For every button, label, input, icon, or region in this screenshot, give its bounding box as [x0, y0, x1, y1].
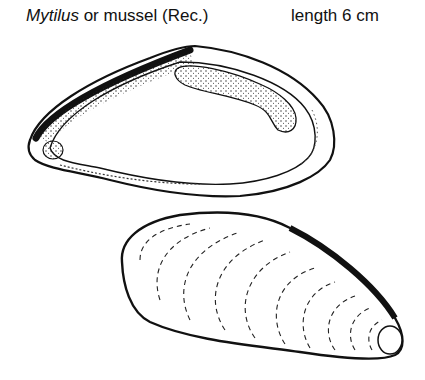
mussel-drawings — [0, 0, 425, 380]
exterior-valve-figure — [122, 213, 403, 359]
interior-valve-figure — [28, 46, 334, 196]
illustration-page: Mytilus or mussel (Rec.) length 6 cm — [0, 0, 425, 380]
